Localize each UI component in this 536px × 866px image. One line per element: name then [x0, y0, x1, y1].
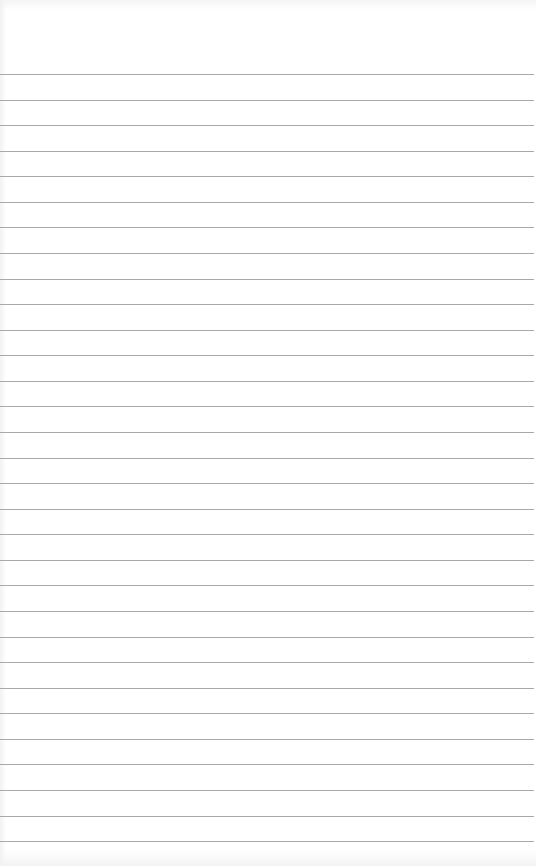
ruled-line [0, 330, 534, 331]
ruled-line [0, 253, 534, 254]
ruled-line [0, 509, 534, 510]
ruled-line [0, 637, 534, 638]
ruled-line [0, 688, 534, 689]
ruled-line [0, 483, 534, 484]
ruled-line [0, 227, 534, 228]
ruled-line [0, 279, 534, 280]
ruled-line [0, 74, 534, 75]
ruled-line [0, 100, 534, 101]
ruled-line [0, 406, 534, 407]
ruled-line [0, 662, 534, 663]
ruled-line [0, 381, 534, 382]
ruled-line [0, 432, 534, 433]
ruled-line [0, 125, 534, 126]
ruled-line [0, 739, 534, 740]
ruled-line [0, 560, 534, 561]
ruled-line [0, 176, 534, 177]
ruled-line [0, 585, 534, 586]
ruled-line [0, 202, 534, 203]
ruled-line [0, 611, 534, 612]
ruled-line [0, 790, 534, 791]
ruled-line [0, 764, 534, 765]
ruled-line [0, 355, 534, 356]
ruled-line [0, 458, 534, 459]
ruled-line [0, 151, 534, 152]
lined-paper-sheet [0, 0, 536, 866]
ruled-line [0, 304, 534, 305]
ruled-line [0, 841, 534, 842]
ruled-line [0, 816, 534, 817]
ruled-line [0, 713, 534, 714]
ruled-line [0, 534, 534, 535]
